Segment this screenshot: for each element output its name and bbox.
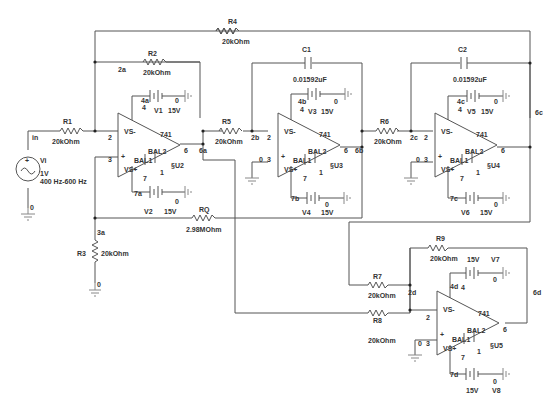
u4-ref: §U4 bbox=[487, 162, 500, 169]
u4-pin7: 7 bbox=[460, 175, 464, 182]
u2-plus: + bbox=[121, 153, 125, 160]
v7-node: 4d bbox=[450, 283, 458, 290]
u3-gnd-label: 0 bbox=[259, 156, 263, 163]
node-2d: 2d bbox=[408, 289, 416, 296]
u2-pin4: 4 bbox=[142, 104, 146, 111]
node-in-label: in bbox=[32, 134, 38, 141]
v4-node: 7b bbox=[291, 195, 299, 202]
v8-value: 15V bbox=[466, 387, 479, 394]
capacitor-c2[interactable]: C2 0.01592uF bbox=[453, 46, 488, 83]
u4-pin2: 2 bbox=[424, 134, 428, 141]
resistor-rq[interactable]: RQ 2.98MOhm bbox=[186, 206, 221, 233]
v6-gnd: 0 bbox=[494, 201, 498, 208]
c2-label: C2 bbox=[458, 46, 467, 53]
r3-gnd-label: 0 bbox=[97, 281, 101, 288]
v5-node: 4c bbox=[457, 98, 465, 105]
resistor-r7[interactable]: R7 20kOhm bbox=[368, 273, 396, 299]
capacitor-c1[interactable]: C1 0.01592uF bbox=[293, 46, 328, 83]
ground-icon bbox=[185, 186, 191, 198]
u2-vs-plus: VS+ bbox=[124, 166, 137, 173]
u3-ref: §U3 bbox=[330, 162, 343, 169]
u4-bal2: BAL2 bbox=[465, 148, 483, 155]
u5-pin6: 6 bbox=[503, 326, 507, 333]
v6-node: 7c bbox=[450, 195, 458, 202]
node-3a: 3a bbox=[97, 229, 105, 236]
v1-id: V1 bbox=[154, 107, 163, 114]
supply-v4[interactable]: 7b 0 V4 15V bbox=[291, 192, 350, 216]
v2-gnd: 0 bbox=[175, 198, 179, 205]
r4-label: R4 bbox=[228, 18, 237, 25]
u2-ref: §U2 bbox=[171, 162, 184, 169]
node-6d: 6d bbox=[533, 289, 541, 296]
u3-pin2: 2 bbox=[267, 134, 271, 141]
u5-pin2: 2 bbox=[426, 314, 430, 321]
v3-node: 4b bbox=[298, 98, 306, 105]
circuit-schematic: R1 20kOhm R2 20kOhm R4 20kOhm R5 20kOhm … bbox=[0, 0, 551, 406]
r7-label: R7 bbox=[373, 273, 382, 280]
r7-value: 20kOhm bbox=[368, 292, 396, 299]
ground-icon bbox=[185, 90, 191, 102]
u3-pin7: 7 bbox=[303, 175, 307, 182]
plus-sign: + bbox=[25, 157, 29, 164]
source-amplitude: 1V bbox=[40, 170, 49, 177]
r8-label: R8 bbox=[373, 317, 382, 324]
r6-label: R6 bbox=[380, 118, 389, 125]
u5-vs-minus: VS- bbox=[443, 306, 455, 313]
ground-icon bbox=[344, 192, 350, 204]
u3-bal1: BAL1 bbox=[293, 157, 311, 164]
u5-pin3: 3 bbox=[426, 340, 430, 347]
capacitors: C1 0.01592uF C2 0.01592uF bbox=[293, 46, 488, 83]
u5-bal1: BAL1 bbox=[452, 336, 470, 343]
r8-value: 20kOhm bbox=[368, 337, 396, 344]
supply-v8[interactable]: 7d 0 V8 15V bbox=[450, 368, 509, 394]
supply-v2[interactable]: 7a 0 V2 15V bbox=[134, 186, 191, 215]
u4-bal1: BAL1 bbox=[450, 157, 468, 164]
v5-gnd: 0 bbox=[494, 98, 498, 105]
u3-pin6: 6 bbox=[344, 147, 348, 154]
u5-pin7: 7 bbox=[461, 354, 465, 361]
node-2c: 2c bbox=[410, 134, 418, 141]
v7-id: V7 bbox=[491, 256, 500, 263]
u4-pin1: 1 bbox=[476, 169, 480, 176]
ground-icon bbox=[503, 368, 509, 380]
supply-v1[interactable]: 4a 0 V1 15V bbox=[141, 90, 191, 114]
u3-pin3: 3 bbox=[267, 156, 271, 163]
u3-plus: + bbox=[281, 153, 285, 160]
resistor-r2[interactable]: R2 20kOhm bbox=[143, 50, 200, 76]
u5-bal2: BAL2 bbox=[467, 327, 485, 334]
u2-pin2: 2 bbox=[108, 134, 112, 141]
u4-gnd-label: 0 bbox=[416, 156, 420, 163]
u5-ref: §U5 bbox=[490, 342, 503, 349]
v8-node: 7d bbox=[450, 371, 458, 378]
c1-value: 0.01592uF bbox=[293, 76, 328, 83]
supply-v5[interactable]: 4c 0 V5 15V bbox=[457, 90, 509, 115]
v7-gnd: 0 bbox=[493, 276, 497, 283]
v2-value: 15V bbox=[164, 208, 177, 215]
v2-node: 7a bbox=[134, 190, 142, 197]
r4-value: 20kOhm bbox=[222, 38, 250, 45]
u5-pin4: 4 bbox=[461, 284, 465, 291]
resistor-r3[interactable]: R3 20kOhm bbox=[77, 240, 129, 262]
v6-id: V6 bbox=[461, 209, 470, 216]
ac-source-vi[interactable]: + Vi 1V 400 Hz-600 Hz in 0 bbox=[16, 134, 87, 220]
r6-value: 20kOhm bbox=[374, 138, 402, 145]
supply-v6[interactable]: 7c 0 V6 15V bbox=[450, 192, 509, 216]
v4-gnd: 0 bbox=[325, 201, 329, 208]
u5-model: 741 bbox=[478, 310, 490, 317]
u4-pin3: 3 bbox=[424, 156, 428, 163]
u2-bal1: BAL1 bbox=[134, 157, 152, 164]
ground-icon bbox=[503, 267, 509, 279]
r1-value: 20kOhm bbox=[52, 138, 80, 145]
u5-pin1: 1 bbox=[477, 348, 481, 355]
v7-value: 15V bbox=[467, 256, 480, 263]
supply-v3[interactable]: 4b 0 V3 15V bbox=[298, 88, 351, 115]
r3-value: 20kOhm bbox=[101, 250, 129, 257]
u4-pin6: 6 bbox=[501, 147, 505, 154]
source-name: Vi bbox=[40, 157, 47, 164]
r5-label: R5 bbox=[222, 118, 231, 125]
node-6a: 6a bbox=[199, 147, 207, 154]
u2-pin7: 7 bbox=[143, 175, 147, 182]
resistor-r8[interactable]: R8 20kOhm bbox=[368, 310, 396, 344]
ground-icon bbox=[503, 192, 509, 204]
u2-model: 741 bbox=[160, 131, 172, 138]
